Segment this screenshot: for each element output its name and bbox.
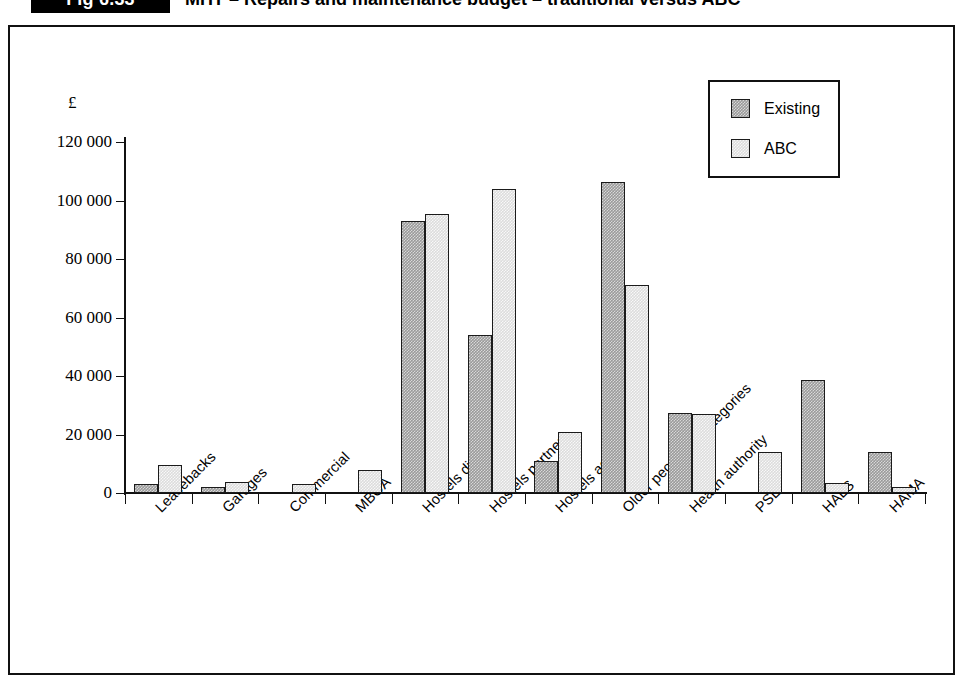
bar-abc xyxy=(558,432,582,493)
y-axis-title: £ xyxy=(68,93,77,113)
y-axis-tick-label: 20 000 xyxy=(65,425,112,445)
bar-abc xyxy=(492,189,516,493)
bar-existing xyxy=(401,221,425,493)
y-axis-tick-label: 0 xyxy=(104,483,113,503)
x-axis-tick xyxy=(458,493,459,504)
x-axis-tick xyxy=(592,493,593,504)
y-axis-tick xyxy=(116,376,125,377)
bar-existing xyxy=(134,484,158,493)
y-axis-tick xyxy=(116,435,125,436)
bar-existing xyxy=(201,487,225,493)
x-axis-tick xyxy=(658,493,659,504)
y-axis-tick-label: 100 000 xyxy=(57,191,112,211)
bar-abc xyxy=(225,482,249,493)
figure-number-badge: Fig 6.33 xyxy=(31,0,170,13)
legend-label-abc: ABC xyxy=(764,140,797,158)
bar-abc xyxy=(625,285,649,493)
legend-swatch-abc-icon xyxy=(731,139,750,158)
legend-item-abc: ABC xyxy=(731,139,797,158)
bar-abc xyxy=(892,487,916,493)
x-axis-tick xyxy=(125,493,126,504)
plot-area: 020 00040 00060 00080 000100 000120 000 xyxy=(125,142,925,493)
legend-item-existing: Existing xyxy=(731,99,820,118)
x-axis-tick xyxy=(725,493,726,504)
x-axis-tick xyxy=(858,493,859,504)
bar-existing xyxy=(534,461,558,493)
x-axis-tick xyxy=(325,493,326,504)
bar-existing xyxy=(601,182,625,494)
x-axis-tick xyxy=(792,493,793,504)
bar-existing xyxy=(868,452,892,493)
y-axis-tick xyxy=(116,318,125,319)
bar-existing xyxy=(668,413,692,493)
chart-legend: Existing ABC xyxy=(708,80,840,178)
x-axis-tick xyxy=(392,493,393,504)
y-axis-tick xyxy=(116,142,125,143)
bar-existing xyxy=(801,380,825,493)
bar-abc xyxy=(692,414,716,493)
figure-heading: Fig 6.33 MHT – Repairs and maintenance b… xyxy=(0,0,965,14)
bar-existing xyxy=(468,335,492,493)
bar-abc xyxy=(825,483,849,493)
bar-abc xyxy=(425,214,449,493)
y-axis-tick-label: 120 000 xyxy=(57,132,112,152)
y-axis-tick xyxy=(116,259,125,260)
x-axis-tick xyxy=(925,493,926,504)
y-axis-tick-label: 40 000 xyxy=(65,366,112,386)
bar-abc xyxy=(292,484,316,493)
x-axis-tick xyxy=(525,493,526,504)
y-axis-tick-label: 80 000 xyxy=(65,249,112,269)
legend-swatch-existing-icon xyxy=(731,99,750,118)
figure-title: MHT – Repairs and maintenance budget – t… xyxy=(185,0,740,13)
chart-frame: £ 020 00040 00060 00080 000100 000120 00… xyxy=(8,25,955,675)
x-axis-tick xyxy=(258,493,259,504)
x-axis-tick xyxy=(192,493,193,504)
bar-abc xyxy=(358,470,382,493)
y-axis-tick-label: 60 000 xyxy=(65,308,112,328)
bar-abc xyxy=(158,465,182,493)
legend-label-existing: Existing xyxy=(764,100,820,118)
y-axis-tick xyxy=(116,493,125,494)
y-axis-tick xyxy=(116,201,125,202)
bar-abc xyxy=(758,452,782,493)
